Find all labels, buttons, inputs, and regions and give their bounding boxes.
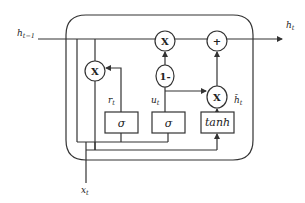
- one-minus-symbol: 1-: [159, 71, 170, 82]
- add-symbol: +: [213, 36, 221, 47]
- reset-sigma-label: σ: [118, 117, 126, 130]
- input-label: xt: [81, 185, 89, 197]
- candidate-label: h̃t: [234, 94, 243, 107]
- update-sigma-label: σ: [165, 117, 173, 130]
- update-gate-label: ut: [151, 95, 160, 107]
- tanh-label: tanh: [205, 116, 230, 129]
- hidden-output-label: ht: [286, 20, 295, 32]
- reset-gate-label: rt: [108, 95, 115, 107]
- prev-hidden-label: ht−1: [17, 28, 35, 40]
- candidate-multiply-symbol: X: [213, 92, 221, 103]
- reset-multiply-symbol: X: [91, 66, 99, 77]
- gru-cell-diagram: ht−1 ht X rt σ X 1- ut σ + X h̃t: [0, 0, 305, 203]
- update-multiply-symbol: X: [161, 36, 169, 47]
